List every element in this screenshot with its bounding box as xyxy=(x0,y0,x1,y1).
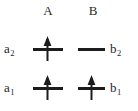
level-label-a2-subscript: 2 xyxy=(10,48,14,58)
column-header-a: A xyxy=(38,4,58,17)
level-label-a2: a2 xyxy=(4,42,14,55)
level-label-b2-subscript: 2 xyxy=(117,48,121,58)
energy-level-diagram: A B a2 b2 a1 b1 xyxy=(0,0,138,111)
level-label-b1-base: b xyxy=(110,80,117,95)
level-label-b1-subscript: 1 xyxy=(117,87,121,97)
spin-up-arrow-icon-b1 xyxy=(85,75,98,100)
level-label-a1-subscript: 1 xyxy=(10,87,14,97)
level-label-a1-base: a xyxy=(4,80,10,95)
level-label-b2: b2 xyxy=(110,42,121,55)
level-label-a1: a1 xyxy=(4,81,14,94)
spin-up-arrow-icon-a2 xyxy=(41,36,54,61)
level-label-b2-base: b xyxy=(110,41,117,56)
column-header-b: B xyxy=(83,4,103,17)
level-label-a2-base: a xyxy=(4,41,10,56)
level-label-b1: b1 xyxy=(110,81,121,94)
energy-level-bar-b2 xyxy=(78,48,105,51)
spin-up-arrow-icon-a1 xyxy=(41,75,54,100)
